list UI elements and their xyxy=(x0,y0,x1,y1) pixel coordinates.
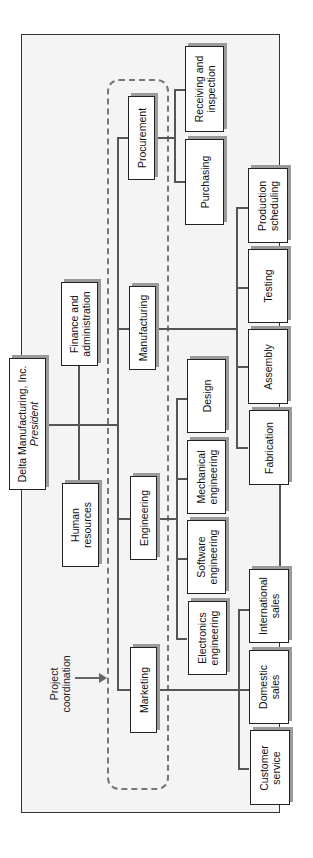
software-label-line2: engineering xyxy=(207,530,219,585)
testing-box[interactable]: Testing xyxy=(248,249,288,323)
human-resources-box[interactable]: Human resources xyxy=(62,483,99,567)
engineering-label: Engineering xyxy=(138,490,150,546)
finance-label-line2: administration xyxy=(80,291,92,356)
international-sales-box[interactable]: International sales xyxy=(249,569,289,643)
fabrication-label: Fabrication xyxy=(263,422,275,474)
international-label-line2: sales xyxy=(269,577,281,635)
annotation-line1: Project xyxy=(48,654,60,714)
electronics-label-line1: Electronics xyxy=(196,611,208,666)
project-coordination-label: Project coordination xyxy=(48,654,72,714)
assembly-box[interactable]: Assembly xyxy=(248,329,288,404)
connector-fabrication xyxy=(236,447,248,449)
fabrication-box[interactable]: Fabrication xyxy=(249,410,289,485)
design-box[interactable]: Design xyxy=(187,359,226,433)
customer-label-line1: Customer xyxy=(258,745,270,791)
manufacturing-box[interactable]: Manufacturing xyxy=(129,286,156,370)
president-title: President xyxy=(28,366,40,483)
connector-electronics xyxy=(176,638,187,640)
finance-label-line1: Finance and xyxy=(68,291,80,356)
design-label: Design xyxy=(201,380,213,413)
assembly-label: Assembly xyxy=(262,344,274,390)
hr-label-line1: Human xyxy=(69,502,81,548)
customer-service-box[interactable]: Customer service xyxy=(250,730,290,805)
international-label-line1: International xyxy=(257,577,269,635)
domestic-sales-box[interactable]: Domestic sales xyxy=(249,650,289,724)
marketing-box[interactable]: Marketing xyxy=(130,647,157,733)
connector-manufacturing xyxy=(117,328,129,330)
software-label-line1: Software xyxy=(195,530,207,585)
engineering-box[interactable]: Engineering xyxy=(130,476,157,560)
customer-label-line2: service xyxy=(270,745,282,791)
procurement-box[interactable]: Procurement xyxy=(128,96,155,180)
electronics-label-line2: engineering xyxy=(208,611,220,666)
annotation-line2: coordination xyxy=(60,654,72,714)
arrow-line xyxy=(75,677,101,679)
receiving-label-line1: Receiving and xyxy=(193,56,205,123)
domestic-label-line2: sales xyxy=(269,665,281,709)
connector-procurement-vertical xyxy=(174,89,176,182)
procurement-label: Procurement xyxy=(136,108,148,168)
connector-right-edge xyxy=(279,485,281,569)
president-box[interactable]: Delta Manufacturing, Inc. President xyxy=(9,358,46,490)
connector-president-spine xyxy=(46,424,119,426)
connector-receiving xyxy=(174,89,185,91)
production-label-line1: Production xyxy=(256,180,268,230)
connector-design xyxy=(176,398,187,400)
connector-engineering-out xyxy=(156,518,177,520)
mechanical-label-line2: engineering xyxy=(207,450,219,505)
connector-engineering-vertical xyxy=(176,398,178,639)
connector-customer xyxy=(238,768,249,770)
connector-production xyxy=(236,207,248,209)
connector-procurement-out xyxy=(155,137,175,139)
connector-marketing xyxy=(117,689,130,691)
purchasing-label: Purchasing xyxy=(199,156,211,209)
software-engineering-box[interactable]: Software engineering xyxy=(187,520,226,594)
connector-assembly xyxy=(236,366,248,368)
receiving-label-line2: inspection xyxy=(205,56,217,123)
marketing-label: Marketing xyxy=(138,667,150,713)
connector-marketing-out xyxy=(157,689,249,691)
connector-manufacturing-out xyxy=(155,328,237,330)
connector-staff xyxy=(78,366,80,483)
domestic-label-line1: Domestic xyxy=(257,665,269,709)
production-label-line2: scheduling xyxy=(268,180,280,230)
manufacturing-label: Manufacturing xyxy=(137,295,149,362)
finance-admin-box[interactable]: Finance and administration xyxy=(61,282,98,366)
connector-software xyxy=(176,558,187,560)
receiving-inspection-box[interactable]: Receiving and inspection xyxy=(185,46,224,132)
electronics-engineering-box[interactable]: Electronics engineering xyxy=(188,601,227,675)
president-org-name: Delta Manufacturing, Inc. xyxy=(16,366,28,483)
connector-purchasing xyxy=(174,181,185,183)
connector-marketing-vertical xyxy=(238,609,240,769)
purchasing-box[interactable]: Purchasing xyxy=(185,139,224,225)
arrow-right-icon xyxy=(99,673,107,683)
testing-label: Testing xyxy=(262,269,274,302)
connector-mechanical xyxy=(176,478,187,480)
hr-label-line2: resources xyxy=(81,502,93,548)
connector-main-spine xyxy=(117,137,119,690)
connector-manufacturing-vertical xyxy=(236,207,238,448)
connector-engineering xyxy=(117,518,130,520)
connector-international xyxy=(238,609,249,611)
mechanical-engineering-box[interactable]: Mechanical engineering xyxy=(187,440,226,514)
production-scheduling-box[interactable]: Production scheduling xyxy=(248,168,288,243)
connector-testing xyxy=(236,287,248,289)
mechanical-label-line1: Mechanical xyxy=(195,450,207,505)
